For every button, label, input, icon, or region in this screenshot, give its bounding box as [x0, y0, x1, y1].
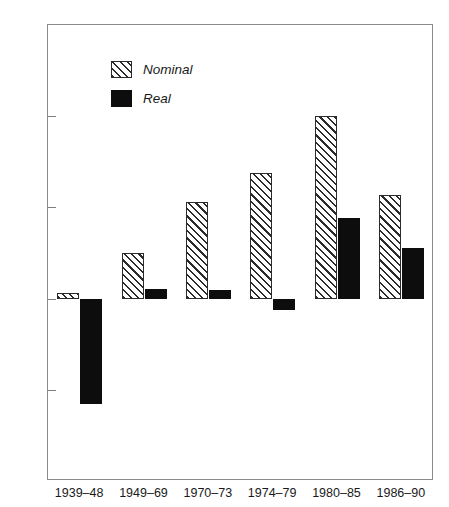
y-axis-tick — [48, 299, 56, 300]
bar-nominal-3 — [250, 173, 272, 299]
bar-nominal-2 — [186, 202, 208, 299]
bar-nominal-1 — [122, 253, 144, 299]
legend: Nominal Real — [111, 58, 193, 116]
legend-label-real: Real — [143, 91, 171, 106]
bar-real-0 — [80, 299, 102, 405]
bar-real-1 — [145, 289, 167, 298]
legend-swatch-real-icon — [111, 90, 132, 107]
bar-nominal-5 — [379, 195, 401, 299]
legend-item-real: Real — [111, 87, 193, 109]
bar-real-3 — [273, 299, 295, 310]
bar-nominal-4 — [315, 116, 337, 298]
legend-swatch-nominal-icon — [111, 61, 132, 78]
bar-real-4 — [338, 218, 360, 298]
y-axis-tick — [48, 390, 56, 391]
bar-real-5 — [402, 248, 424, 299]
legend-label-nominal: Nominal — [143, 62, 193, 77]
y-axis-tick — [48, 207, 56, 208]
y-axis-tick — [48, 116, 56, 117]
chart-container: 151050-5-10 1939–481949–691970–731974–79… — [0, 0, 449, 507]
legend-item-nominal: Nominal — [111, 58, 193, 80]
bar-real-2 — [209, 290, 231, 298]
bar-nominal-0 — [57, 293, 79, 298]
plot-area: Nominal Real — [47, 24, 433, 480]
x-axis-label-5: 1986–90 — [361, 487, 441, 500]
